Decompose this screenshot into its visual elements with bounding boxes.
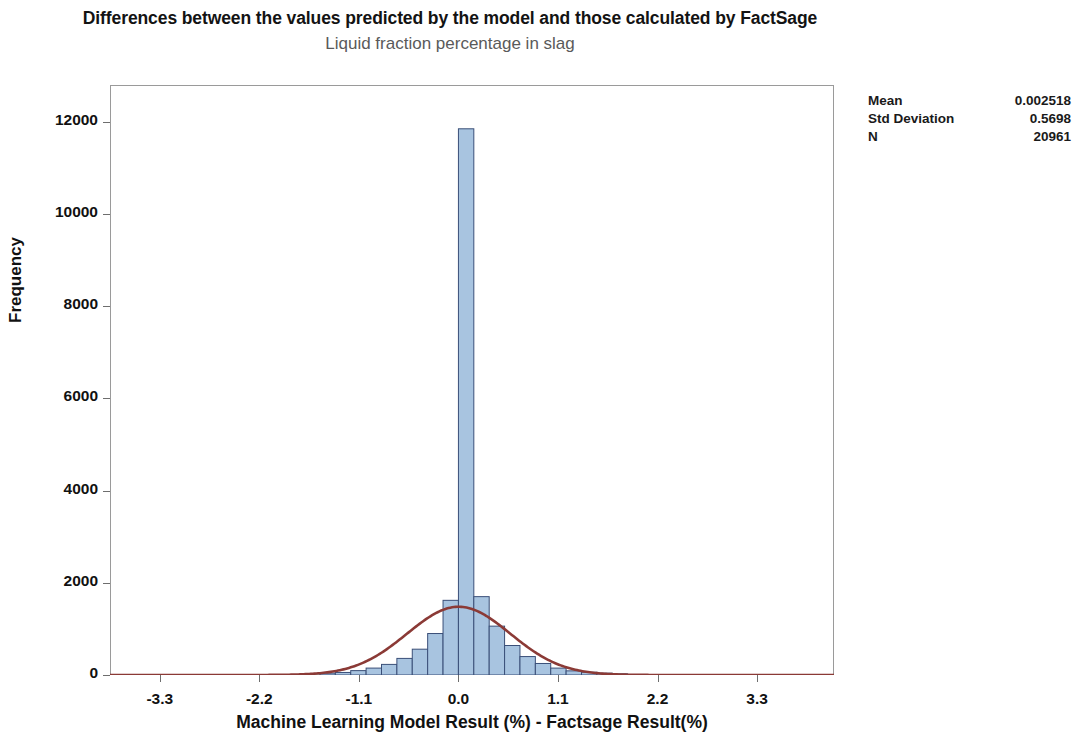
stat-label-n: N xyxy=(868,128,878,146)
x-axis-tick-label: -1.1 xyxy=(319,690,399,708)
y-axis-tick-mark xyxy=(103,398,110,399)
stat-value-std-deviation: 0.5698 xyxy=(1030,110,1071,128)
x-axis-tick-mark xyxy=(757,675,758,682)
y-axis-tick-label: 10000 xyxy=(0,203,98,221)
chart-subtitle: Liquid fraction percentage in slag xyxy=(0,34,900,54)
plot-area xyxy=(110,85,834,675)
y-axis-tick-mark xyxy=(103,306,110,307)
y-axis-tick-mark xyxy=(103,122,110,123)
stat-row: Mean 0.002518 xyxy=(868,92,1073,110)
x-axis-tick-label: 1.1 xyxy=(518,690,598,708)
y-axis-tick-label: 2000 xyxy=(0,572,98,590)
x-axis-tick-label: 2.2 xyxy=(618,690,698,708)
normal-curve-path xyxy=(110,607,834,675)
y-axis-tick-mark xyxy=(103,214,110,215)
y-axis-tick-label: 0 xyxy=(0,664,98,682)
y-axis-tick-label: 8000 xyxy=(0,295,98,313)
x-axis-label: Machine Learning Model Result (%) - Fact… xyxy=(110,712,834,733)
chart-canvas: Differences between the values predicted… xyxy=(0,0,1073,744)
stat-label-mean: Mean xyxy=(868,92,903,110)
x-axis-tick-label: 0.0 xyxy=(418,690,498,708)
stat-label-std-deviation: Std Deviation xyxy=(868,110,954,128)
y-axis-tick-mark xyxy=(103,675,110,676)
statistics-panel: Mean 0.002518 Std Deviation 0.5698 N 209… xyxy=(868,92,1073,146)
stat-row: Std Deviation 0.5698 xyxy=(868,110,1073,128)
stat-row: N 20961 xyxy=(868,128,1073,146)
x-axis-tick-mark xyxy=(259,675,260,682)
y-axis-tick-mark xyxy=(103,583,110,584)
x-axis-tick-mark xyxy=(458,675,459,682)
x-axis-tick-label: -2.2 xyxy=(219,690,299,708)
stat-value-n: 20961 xyxy=(1033,128,1071,146)
y-axis-tick-label: 6000 xyxy=(0,387,98,405)
x-axis-tick-label: 3.3 xyxy=(717,690,797,708)
x-axis-tick-mark xyxy=(359,675,360,682)
chart-title: Differences between the values predicted… xyxy=(0,8,900,29)
y-axis-tick-mark xyxy=(103,491,110,492)
x-axis-tick-mark xyxy=(558,675,559,682)
normal-distribution-curve xyxy=(110,85,834,675)
y-axis-tick-label: 4000 xyxy=(0,480,98,498)
x-axis-tick-label: -3.3 xyxy=(120,690,200,708)
x-axis-tick-mark xyxy=(160,675,161,682)
y-axis-tick-label: 12000 xyxy=(0,111,98,129)
x-axis-tick-mark xyxy=(658,675,659,682)
stat-value-mean: 0.002518 xyxy=(1015,92,1071,110)
